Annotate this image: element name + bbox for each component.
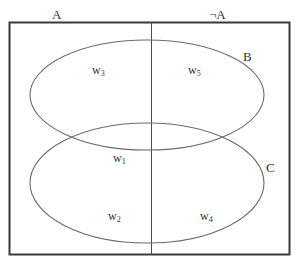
column-label-a: A (52, 8, 61, 21)
venn-diagram: A ¬A B C w3 w5 w1 w2 w4 (0, 0, 297, 261)
world-label-w1: w1 (113, 152, 126, 166)
set-label-b: B (243, 50, 252, 63)
world-label-w2: w2 (108, 210, 121, 224)
set-b-ellipse (30, 40, 264, 150)
world-label-w3: w3 (92, 64, 105, 78)
set-label-c: C (266, 161, 275, 174)
world-label-w5: w5 (188, 64, 201, 78)
set-c-ellipse (30, 123, 264, 243)
venn-diagram-canvas (0, 0, 297, 261)
column-label-not-a: ¬A (209, 8, 226, 21)
world-label-w4: w4 (200, 210, 213, 224)
